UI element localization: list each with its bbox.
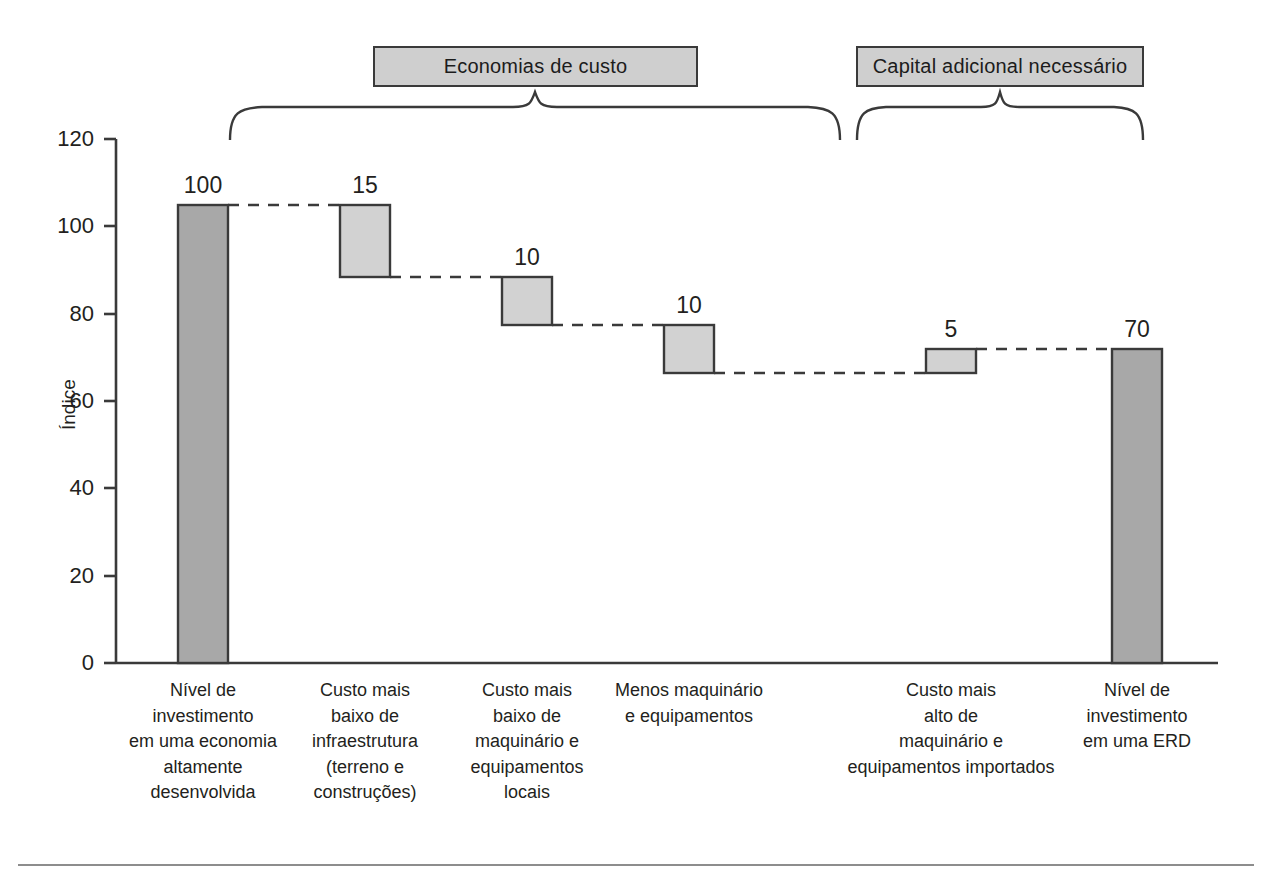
category-line: baixo de — [470, 704, 583, 730]
category-line: alto de — [847, 704, 1054, 730]
bar-decrease-less-machinery — [664, 325, 714, 373]
bracket-label-text: Capital adicional necessário — [873, 55, 1128, 78]
category-line: em uma ERD — [1083, 729, 1191, 755]
bar-value-label: 70 — [1124, 316, 1150, 343]
category-line: Custo mais — [847, 678, 1054, 704]
footer-divider — [18, 864, 1254, 866]
y-tick-label: 60 — [46, 388, 94, 414]
category-line: altamente — [129, 755, 277, 781]
bar-decrease-local-machinery — [502, 277, 552, 325]
y-tick-label: 40 — [46, 475, 94, 501]
category-line: infraestrutura — [312, 729, 418, 755]
y-tick-label: 120 — [46, 126, 94, 152]
category-line: investimento — [129, 704, 277, 730]
category-line: construções) — [312, 780, 418, 806]
category-line: e equipamentos — [615, 704, 763, 730]
category-line: maquinário e — [470, 729, 583, 755]
bracket-label-text: Economias de custo — [444, 55, 628, 78]
category-line: Custo mais — [312, 678, 418, 704]
bar-total-end — [1112, 349, 1162, 663]
category-line: (terreno e — [312, 755, 418, 781]
bar-value-label: 10 — [676, 292, 702, 319]
category-line: Menos maquinário — [615, 678, 763, 704]
y-axis-ticks — [104, 139, 116, 663]
waterfall-chart: Economias de custo Capital adicional nec… — [0, 0, 1270, 883]
category-label-lower-local-machinery: Custo mais baixo de maquinário e equipam… — [470, 678, 583, 806]
category-line: equipamentos — [470, 755, 583, 781]
category-line: equipamentos importados — [847, 755, 1054, 781]
brace-cost-savings — [230, 92, 840, 140]
bar-decrease-infrastructure — [340, 205, 390, 277]
category-label-lower-infrastructure: Custo mais baixo de infraestrutura (terr… — [312, 678, 418, 806]
bar-value-label: 5 — [945, 316, 958, 343]
y-tick-label: 80 — [46, 301, 94, 327]
bar-increase-imported-machinery — [926, 349, 976, 373]
category-line: Nível de — [129, 678, 277, 704]
category-line: em uma economia — [129, 729, 277, 755]
bar-total-start — [178, 205, 228, 663]
category-label-less-machinery: Menos maquinário e equipamentos — [615, 678, 763, 729]
y-tick-label: 20 — [46, 563, 94, 589]
bar-value-label: 100 — [184, 172, 222, 199]
bar-value-label: 15 — [352, 172, 378, 199]
category-line: Nível de — [1083, 678, 1191, 704]
category-label-investment-developed: Nível de investimento em uma economia al… — [129, 678, 277, 806]
bracket-label-additional-capital: Capital adicional necessário — [856, 46, 1144, 87]
category-label-investment-erd: Nível de investimento em uma ERD — [1083, 678, 1191, 755]
y-tick-label: 100 — [46, 213, 94, 239]
category-line: desenvolvida — [129, 780, 277, 806]
category-line: locais — [470, 780, 583, 806]
brace-additional-capital — [857, 92, 1143, 140]
category-line: baixo de — [312, 704, 418, 730]
y-tick-label: 0 — [46, 650, 94, 676]
category-line: investimento — [1083, 704, 1191, 730]
category-line: Custo mais — [470, 678, 583, 704]
bar-value-label: 10 — [514, 244, 540, 271]
bracket-label-cost-savings: Economias de custo — [373, 46, 698, 87]
category-label-higher-imported-machinery: Custo mais alto de maquinário e equipame… — [847, 678, 1054, 780]
category-line: maquinário e — [847, 729, 1054, 755]
waterfall-connectors — [228, 205, 1114, 373]
